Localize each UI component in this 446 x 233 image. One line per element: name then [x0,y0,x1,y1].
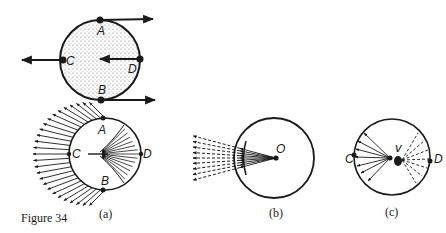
rim-velocity-arrow [43,174,75,184]
rim-velocity-arrow [48,178,78,190]
panel-c-label-v: v [395,140,403,155]
panel-a-label-c: C [72,147,81,161]
panel-a: A B C D (a) [33,102,152,221]
panel-c-swirl-mark [394,156,402,166]
panel-c-point-d-dot [428,159,433,164]
rim-velocity-arrow [35,141,70,145]
panel-c-label-c: C [345,152,354,166]
point-b-dot [98,97,105,104]
solid-ray-arrow [358,141,390,158]
panel-c-label-d: D [434,152,443,166]
dashed-ray-arrow [193,136,240,149]
panel-b-label-o: O [276,142,285,156]
panel-a-point-a-dot [101,116,106,121]
solid-ray-arrow [361,158,390,173]
solid-ray-arrow [368,158,390,181]
point-d-dot [137,56,144,63]
dashed-ray [402,160,422,176]
dashed-ray-arrow [193,147,240,153]
panel-b: O (b) [193,118,314,220]
label-a: A [96,24,105,38]
dashed-ray [402,159,429,160]
panel-a-label-d: D [143,147,152,161]
panel-b-caption: (b) [269,206,283,220]
rim-velocity-arrow [43,124,75,134]
rim-velocity-arrow [48,119,78,131]
inner-velocity-arrow [102,156,128,175]
velocity-arrow-a [100,19,153,20]
figure-canvas: A B C D A B C D (a) O (b) [0,0,446,233]
panel-a-label-b: B [101,174,109,188]
panel-c-caption: (c) [385,205,398,219]
dashed-ray-arrow [193,163,240,169]
dashed-ray [402,150,428,160]
rim-velocity-arrow [35,163,70,167]
rim-velocity-arrow [33,147,69,149]
label-d: D [128,62,137,76]
dashed-ray-arrow [193,153,240,156]
dashed-ray [402,141,424,160]
panel-c-center-dot [388,156,393,161]
label-b: B [98,83,106,97]
solid-ray-arrow [355,157,390,158]
figure-caption: Figure 34 [21,211,67,225]
panel-c: C v D (c) [345,119,443,219]
top-disc-diagram: A B C D [22,17,155,104]
dashed-ray-arrow [193,168,240,181]
panel-b-velocity-fan [193,136,276,180]
solid-ray-arrow [357,158,390,166]
panel-c-velocity-fan [355,133,390,181]
panel-a-caption: (a) [99,207,112,221]
rim-velocity-arrow [33,158,69,160]
label-c: C [66,54,75,68]
panel-a-point-c-dot [67,152,71,156]
dashed-ray-arrow [193,160,240,163]
panel-b-center-dot [273,155,278,160]
point-a-dot [97,17,104,24]
panel-a-label-a: A [97,123,106,137]
panel-a-point-b-dot [101,188,106,193]
dashed-ray [402,133,418,160]
